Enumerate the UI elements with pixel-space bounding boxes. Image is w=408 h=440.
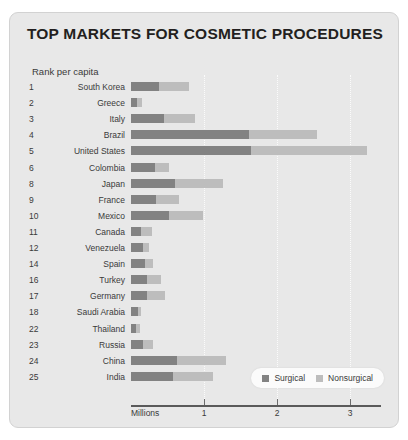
bar-segment-surgical [131, 146, 251, 155]
row-rank: 5 [29, 143, 47, 159]
bar-segment-surgical [131, 130, 249, 139]
legend-label-surgical: Surgical [274, 373, 305, 383]
bar-segment-surgical [131, 372, 173, 381]
legend-swatch-nonsurgical-icon [316, 375, 323, 382]
row-country-label: Turkey [47, 272, 125, 288]
row-rank: 3 [29, 111, 47, 127]
bar-segment-nonsurgical [159, 82, 189, 91]
stacked-bar [131, 163, 169, 172]
chart-row: 22Thailand [10, 321, 399, 337]
chart-row: 3Italy [10, 111, 399, 127]
row-country-label: Greece [47, 95, 125, 111]
legend-item-surgical: Surgical [262, 373, 305, 383]
bar-segment-nonsurgical [141, 227, 152, 236]
stacked-bar [131, 243, 149, 252]
bar-segment-nonsurgical [177, 356, 226, 365]
row-rank: 2 [29, 95, 47, 111]
row-rank: 6 [29, 160, 47, 176]
chart-row: 18Saudi Arabia [10, 304, 399, 320]
legend-swatch-surgical-icon [262, 375, 269, 382]
row-rank: 12 [29, 240, 47, 256]
row-rank: 24 [29, 353, 47, 369]
stacked-bar [131, 211, 203, 220]
row-rank: 16 [29, 272, 47, 288]
stacked-bar [131, 340, 153, 349]
bar-segment-nonsurgical [138, 307, 142, 316]
row-country-label: Canada [47, 224, 125, 240]
x-axis-title: Millions [131, 408, 159, 418]
chart-row: 12Venezuela [10, 240, 399, 256]
row-rank: 1 [29, 79, 47, 95]
bar-segment-surgical [131, 195, 156, 204]
row-country-label: Spain [47, 256, 125, 272]
row-country-label: Japan [47, 176, 125, 192]
chart-row: 9France [10, 192, 399, 208]
chart-row: 16Turkey [10, 272, 399, 288]
row-rank: 14 [29, 256, 47, 272]
bar-segment-nonsurgical [173, 372, 213, 381]
chart-row: 23Russia [10, 337, 399, 353]
stacked-bar [131, 98, 142, 107]
row-country-label: United States [47, 143, 125, 159]
bar-segment-nonsurgical [251, 146, 366, 155]
row-rank: 25 [29, 369, 47, 385]
row-country-label: Germany [47, 288, 125, 304]
bar-segment-nonsurgical [147, 291, 165, 300]
bar-segment-surgical [131, 114, 164, 123]
row-country-label: Russia [47, 337, 125, 353]
bar-segment-nonsurgical [164, 114, 195, 123]
row-rank: 17 [29, 288, 47, 304]
stacked-bar [131, 130, 317, 139]
stacked-bar [131, 291, 165, 300]
bar-segment-nonsurgical [143, 340, 153, 349]
bar-segment-surgical [131, 275, 147, 284]
row-rank: 10 [29, 208, 47, 224]
chart-row: 24China [10, 353, 399, 369]
stacked-bar [131, 114, 195, 123]
legend-item-nonsurgical: Nonsurgical [316, 373, 373, 383]
bar-segment-nonsurgical [156, 195, 179, 204]
bar-segment-nonsurgical [155, 163, 169, 172]
chart-legend: Surgical Nonsurgical [251, 368, 384, 388]
bar-segment-surgical [131, 259, 145, 268]
chart-row: 1South Korea [10, 79, 399, 95]
row-rank: 4 [29, 127, 47, 143]
chart-row: 14Spain [10, 256, 399, 272]
stacked-bar [131, 275, 161, 284]
bar-segment-nonsurgical [147, 275, 161, 284]
stacked-bar [131, 372, 213, 381]
x-axis-tick-label: 2 [267, 408, 287, 418]
row-country-label: Thailand [47, 321, 125, 337]
row-country-label: Mexico [47, 208, 125, 224]
x-axis-tick-label: 1 [194, 408, 214, 418]
stacked-bar [131, 259, 153, 268]
stacked-bar [131, 82, 189, 91]
bar-segment-nonsurgical [137, 98, 142, 107]
chart-row: 17Germany [10, 288, 399, 304]
row-country-label: Colombia [47, 160, 125, 176]
chart-plot-area: 1231South Korea2Greece3Italy4Brazil5Unit… [10, 13, 399, 428]
stacked-bar [131, 195, 179, 204]
row-country-label: India [47, 369, 125, 385]
chart-row: 4Brazil [10, 127, 399, 143]
row-country-label: China [47, 353, 125, 369]
bar-segment-surgical [131, 163, 155, 172]
bar-segment-nonsurgical [145, 259, 153, 268]
row-country-label: Saudi Arabia [47, 304, 125, 320]
bar-segment-surgical [131, 243, 143, 252]
bar-segment-surgical [131, 82, 159, 91]
bar-segment-nonsurgical [143, 243, 149, 252]
stacked-bar [131, 356, 226, 365]
bar-segment-nonsurgical [249, 130, 317, 139]
bar-segment-nonsurgical [169, 211, 203, 220]
row-rank: 18 [29, 304, 47, 320]
row-country-label: Brazil [47, 127, 125, 143]
row-rank: 9 [29, 192, 47, 208]
stacked-bar [131, 179, 223, 188]
bar-segment-nonsurgical [136, 324, 140, 333]
bar-segment-surgical [131, 340, 143, 349]
row-rank: 23 [29, 337, 47, 353]
bar-segment-nonsurgical [175, 179, 223, 188]
stacked-bar [131, 307, 141, 316]
bar-segment-surgical [131, 356, 177, 365]
